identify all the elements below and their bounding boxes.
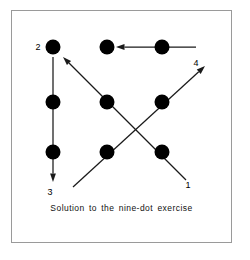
sequence-label-1: 1 (185, 180, 190, 190)
solution-path-lines (53, 47, 199, 187)
dot-r1c1 (46, 40, 61, 55)
dot-r1c2 (100, 40, 115, 55)
sequence-label-2: 2 (35, 42, 40, 52)
dot-r1c3 (155, 40, 170, 55)
dot-r3c2 (100, 145, 115, 160)
dot-r3c1 (46, 145, 61, 160)
arrowhead-segment-2 (50, 174, 56, 183)
figure-caption: Solution to the nine-dot exercise (11, 203, 232, 213)
dot-r2c2 (100, 95, 115, 110)
dot-r3c3 (155, 145, 170, 160)
sequence-number-labels: 1234 (35, 42, 198, 197)
dot-grid (46, 40, 170, 160)
solution-path-arrowheads (50, 44, 205, 182)
dot-r2c3 (155, 95, 170, 110)
path-segment-3 (73, 72, 199, 187)
sequence-label-3: 3 (47, 187, 52, 197)
path-segment-1 (69, 63, 186, 180)
dot-r2c1 (46, 95, 61, 110)
nine-dot-figure: 1234 Solution to the nine-dot exercise (0, 0, 250, 260)
arrowhead-segment-4 (116, 44, 125, 50)
nine-dot-diagram: 1234 (0, 0, 250, 260)
sequence-label-4: 4 (193, 58, 198, 68)
